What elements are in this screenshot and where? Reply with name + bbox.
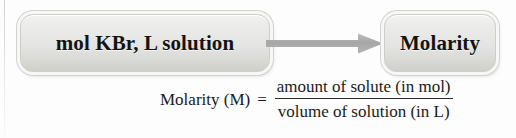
flow-node-given-label: mol KBr, L solution xyxy=(56,31,235,56)
flow-node-given: mol KBr, L solution xyxy=(20,14,270,72)
diagram-canvas: mol KBr, L solution Molarity Molarity (M… xyxy=(0,0,516,138)
arrow-right-icon xyxy=(266,33,384,54)
formula-equals-sign: = xyxy=(257,91,275,108)
formula-numerator: amount of solute (in mol) xyxy=(275,78,453,98)
page-edge-artifact xyxy=(4,0,5,138)
flow-node-result-label: Molarity xyxy=(400,31,480,56)
flow-node-result: Molarity xyxy=(384,14,496,72)
formula-left-side: Molarity (M) xyxy=(160,91,257,108)
formula-fraction: amount of solute (in mol) volume of solu… xyxy=(275,78,453,120)
molarity-formula: Molarity (M) = amount of solute (in mol)… xyxy=(160,78,453,120)
formula-denominator: volume of solution (in L) xyxy=(276,99,452,120)
